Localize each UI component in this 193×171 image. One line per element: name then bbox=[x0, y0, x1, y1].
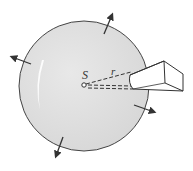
source-label: S bbox=[82, 68, 88, 83]
point-source-icon bbox=[82, 83, 86, 87]
radius-label: r bbox=[111, 65, 115, 77]
point-source-diagram bbox=[0, 0, 193, 171]
